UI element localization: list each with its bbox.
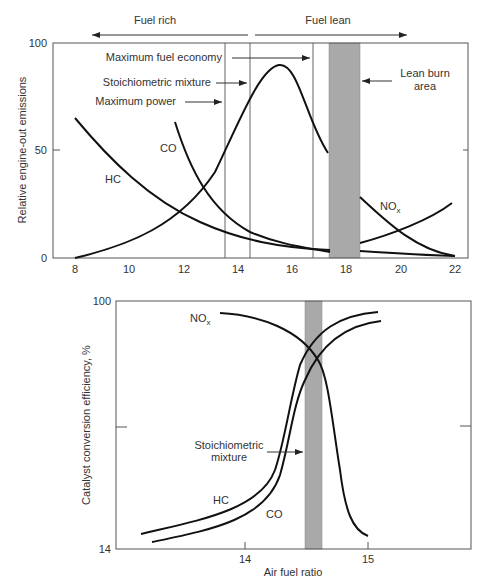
nox-efficiency-label: NOx — [190, 312, 211, 327]
figure: Fuel rich Fuel lean 100 50 0 8 10 12 14 … — [0, 0, 479, 577]
max-fuel-economy-label: Maximum fuel economy — [106, 51, 223, 63]
x-tick-15-bottom: 15 — [362, 553, 374, 565]
x-tick-14-bottom: 14 — [239, 553, 251, 565]
co-label: CO — [160, 142, 177, 154]
y-tick-14-bottom: 14 — [99, 543, 111, 555]
y-tick-100-bottom: 100 — [93, 295, 111, 307]
hc-efficiency-label: HC — [213, 494, 229, 506]
y-tick-0: 0 — [41, 252, 47, 264]
nox-curve — [75, 65, 328, 258]
bottom-chart: 100 14 14 15 Air fuel ratio Catalyst con… — [80, 295, 471, 577]
top-y-axis-label: Relative engine-out emissions — [16, 76, 28, 223]
x-tick-16: 16 — [286, 263, 298, 275]
stoich-label-bottom-2: mixture — [211, 451, 247, 463]
x-tick-12: 12 — [178, 263, 190, 275]
max-power-label: Maximum power — [95, 95, 176, 107]
fuel-rich-label: Fuel rich — [134, 14, 176, 26]
nox-label: NOx — [380, 200, 401, 215]
x-tick-10: 10 — [123, 263, 135, 275]
lean-burn-band — [329, 43, 360, 258]
lean-burn-label-2: area — [414, 80, 437, 92]
x-tick-18: 18 — [340, 263, 352, 275]
x-tick-14: 14 — [232, 263, 244, 275]
nox-efficiency-curve — [220, 313, 368, 536]
bottom-y-axis-label: Catalyst conversion efficiency, % — [80, 345, 92, 505]
stoich-label-bottom-1: Stoichiometric — [194, 439, 264, 451]
co-efficiency-label: CO — [266, 508, 283, 520]
bottom-plot-frame — [116, 301, 471, 549]
hc-label: HC — [105, 173, 121, 185]
hc-efficiency-curve — [141, 312, 378, 534]
bottom-x-axis-label: Air fuel ratio — [264, 566, 323, 577]
y-tick-100: 100 — [29, 37, 47, 49]
co-curve — [175, 122, 330, 252]
fuel-lean-label: Fuel lean — [305, 14, 350, 26]
stoich-label: Stoichiometric mixture — [103, 76, 211, 88]
lean-burn-label-1: Lean burn — [400, 67, 450, 79]
x-tick-20: 20 — [395, 263, 407, 275]
x-tick-22: 22 — [449, 263, 461, 275]
y-tick-50: 50 — [35, 144, 47, 156]
top-chart: Fuel rich Fuel lean 100 50 0 8 10 12 14 … — [16, 14, 468, 275]
x-tick-8: 8 — [72, 263, 78, 275]
stoich-band — [305, 301, 322, 549]
